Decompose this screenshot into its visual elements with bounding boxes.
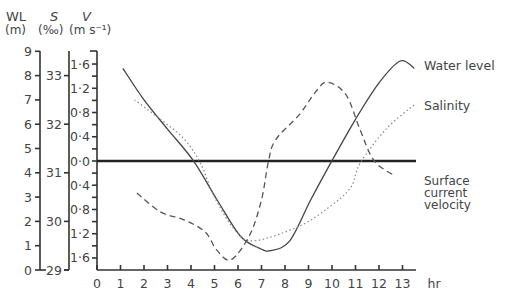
x-tick-label: 7 <box>258 276 266 291</box>
x-tick-label: 12 <box>371 276 387 291</box>
wl-tick-label: 7 <box>24 92 32 107</box>
v-tick-label: 0·4 <box>70 129 90 144</box>
s-axis-unit: (‰) <box>38 23 63 37</box>
v-axis-label: V <box>82 9 92 24</box>
v-tick-label: 0·0 <box>70 154 90 169</box>
wl-tick-label: 6 <box>24 117 32 132</box>
s-axis: 2930313233 <box>46 51 69 278</box>
legend-water-level: Water level <box>424 58 495 73</box>
s-axis-label: S <box>50 9 58 24</box>
x-tick-label: 6 <box>234 276 242 291</box>
v-tick-label: 1·2 <box>70 81 90 96</box>
x-tick-label: 4 <box>187 276 195 291</box>
wl-tick-label: 1 <box>24 238 32 253</box>
v-tick-label: 0·4 <box>70 178 90 193</box>
x-tick-label: 9 <box>305 276 313 291</box>
x-tick-label: 2 <box>140 276 148 291</box>
v-axis: 0·00·40·81·21·60·40·81·21·6 <box>70 51 97 270</box>
wl-tick-label: 8 <box>24 68 32 83</box>
x-tick-label: 0 <box>93 276 101 291</box>
s-tick-label: 32 <box>46 117 62 132</box>
wl-tick-label: 2 <box>24 214 32 229</box>
x-tick-label: 8 <box>281 276 289 291</box>
x-axis: 012345678910111213hr <box>93 265 441 291</box>
v-tick-label: 1·6 <box>70 57 90 72</box>
salinity-curve <box>135 100 415 241</box>
v-tick-label: 0·8 <box>70 202 90 217</box>
x-tick-label: 13 <box>395 276 411 291</box>
wl-tick-label: 5 <box>24 141 32 156</box>
v-axis-unit: (m s⁻¹) <box>69 23 111 37</box>
x-tick-label: 5 <box>211 276 219 291</box>
wl-tick-label: 0 <box>24 263 32 278</box>
s-tick-label: 33 <box>46 68 62 83</box>
water-level-curve <box>123 61 415 251</box>
x-tick-label: 1 <box>117 276 125 291</box>
x-tick-label: 3 <box>164 276 172 291</box>
wl-axis: 0123456789 <box>24 44 46 278</box>
axis-headers: WL (m) S (‰) V (m s⁻¹) <box>5 9 111 37</box>
x-axis-label: hr <box>427 276 441 291</box>
tidal-chart: WL (m) S (‰) V (m s⁻¹) 0123456789 293031… <box>0 0 512 301</box>
s-tick-label: 31 <box>46 165 62 180</box>
wl-axis-label: WL <box>6 9 27 24</box>
x-tick-label: 10 <box>324 276 340 291</box>
wl-tick-label: 9 <box>24 44 32 59</box>
legend: Water level Salinity Surface current vel… <box>424 58 495 212</box>
v-tick-label: 1·6 <box>70 250 90 265</box>
v-tick-label: 1·2 <box>70 226 90 241</box>
x-tick-label: 11 <box>348 276 364 291</box>
wl-tick-label: 3 <box>24 190 32 205</box>
wl-tick-label: 4 <box>24 165 32 180</box>
s-tick-label: 30 <box>46 214 62 229</box>
s-tick-label: 29 <box>46 263 62 278</box>
legend-velocity-3: velocity <box>424 198 471 212</box>
v-tick-label: 0·8 <box>70 105 90 120</box>
legend-salinity: Salinity <box>424 98 471 113</box>
wl-axis-unit: (m) <box>5 23 26 37</box>
